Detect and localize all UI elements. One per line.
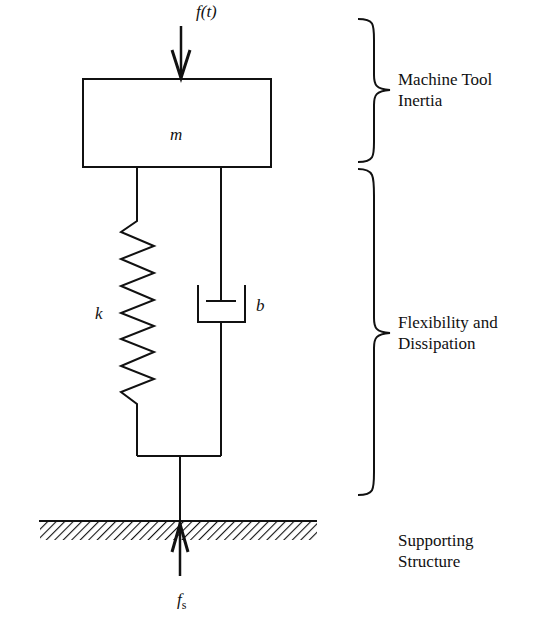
spring-label: k <box>95 304 103 324</box>
mass-block <box>83 79 271 167</box>
annotation-flexibility-line1: Flexibility and <box>398 312 498 333</box>
damper-icon <box>198 167 245 456</box>
annotation-support-line2: Structure <box>398 551 474 572</box>
support-force-label-sub: s <box>182 598 187 612</box>
damper-label: b <box>256 296 265 316</box>
annotation-flexibility-line2: Dissipation <box>398 333 498 354</box>
input-force-arrow-icon <box>172 26 190 78</box>
annotation-support: Supporting Structure <box>398 530 474 572</box>
spring-icon <box>121 167 154 456</box>
annotation-inertia-line1: Machine Tool <box>398 69 492 90</box>
support-force-label: fs <box>177 590 186 615</box>
brace-inertia-icon <box>358 19 390 162</box>
annotation-inertia-line2: Inertia <box>398 90 492 111</box>
annotation-support-line1: Supporting <box>398 530 474 551</box>
annotation-flexibility: Flexibility and Dissipation <box>398 312 498 354</box>
mass-label: m <box>170 125 182 145</box>
brace-flexibility-icon <box>358 169 390 495</box>
input-force-label: f(t) <box>196 2 217 22</box>
annotation-inertia: Machine Tool Inertia <box>398 69 492 111</box>
